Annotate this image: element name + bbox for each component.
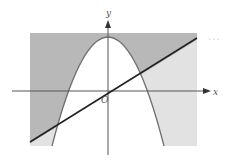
x-axis-label: x <box>213 87 218 97</box>
x-axis-arrow-icon <box>203 88 211 94</box>
y-axis-arrow-icon <box>105 20 111 28</box>
ellipsis-indicator: ... <box>208 31 221 42</box>
y-axis-label: y <box>105 8 112 18</box>
inequality-region-diagram: x y O ... <box>0 0 228 163</box>
origin-label: O <box>101 95 109 105</box>
